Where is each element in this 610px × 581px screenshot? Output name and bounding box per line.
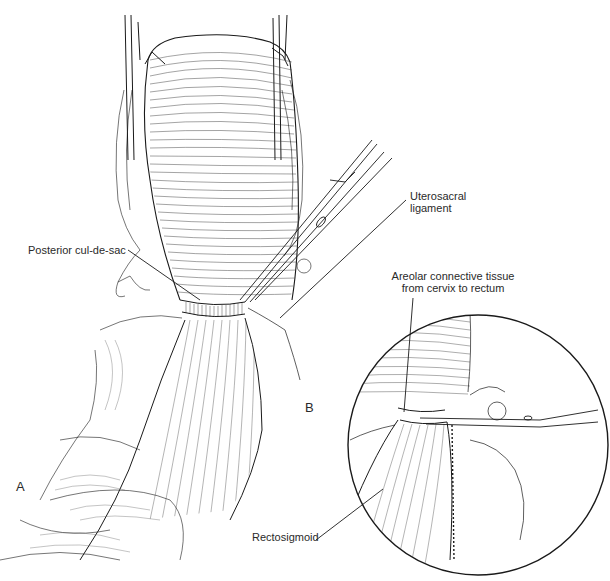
label-areolar-line1: Areolar connective tissue xyxy=(358,270,548,282)
label-uterosacral-line2: ligament xyxy=(410,202,466,214)
label-posterior-cul-de-sac: Posterior cul-de-sac xyxy=(28,244,126,256)
label-rectosigmoid: Rectosigmoid xyxy=(252,531,319,543)
panel-letter-b: B xyxy=(305,400,314,415)
panel-a-drawing xyxy=(0,15,406,560)
panel-b-drawing xyxy=(316,298,608,575)
label-uterosacral-line1: Uterosacral xyxy=(410,190,466,202)
label-areolar-line2: from cervix to rectum xyxy=(358,282,548,294)
retractor-left-icon xyxy=(125,15,140,160)
label-areolar-connective-tissue: Areolar connective tissue from cervix to… xyxy=(358,270,548,294)
retractor-right-icon xyxy=(273,15,287,160)
panel-letter-a: A xyxy=(16,479,25,494)
label-uterosacral-ligament: Uterosacral ligament xyxy=(410,190,466,214)
leader-uterosacral xyxy=(280,200,406,318)
leader-posterior-cul-de-sac xyxy=(128,250,200,300)
